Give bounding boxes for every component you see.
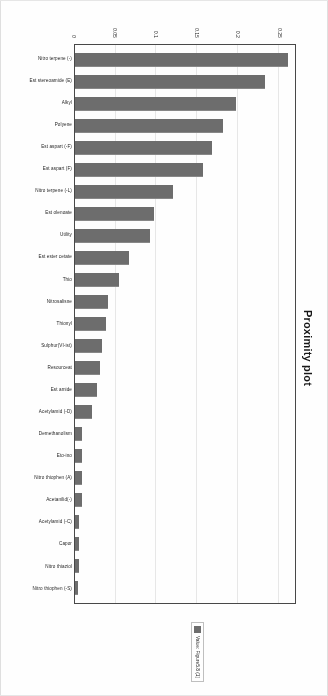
x-axis-tick-label: Thionyl (56, 322, 72, 327)
x-axis-tick-label: Nitrosalisne (47, 300, 72, 305)
x-label-slot: Resourceat (6, 357, 72, 379)
x-axis-tick-label: Nitro terpene (-) (38, 57, 72, 62)
x-label-slot: Est aspart (-F) (6, 136, 72, 158)
legend-swatch-icon (194, 626, 201, 633)
bar-slot (75, 181, 295, 203)
x-axis-tick-label: Demethanolism (39, 432, 72, 437)
bar-slot (75, 137, 295, 159)
x-label-slot: Polyene (6, 114, 72, 136)
bar[interactable] (75, 273, 119, 287)
bar[interactable] (75, 383, 97, 397)
x-label-slot: Est amide (6, 379, 72, 401)
bar[interactable] (75, 559, 79, 573)
x-label-slot: Capor (6, 534, 72, 556)
x-label-slot: Est olenoate (6, 203, 72, 225)
bar[interactable] (75, 581, 78, 595)
x-label-slot: Est ester cetate (6, 247, 72, 269)
bar-slot (75, 489, 295, 511)
x-label-slot: Est stereoamide (E) (6, 70, 72, 92)
bar-series (75, 45, 295, 603)
page-edge-bottom (0, 0, 1, 696)
x-axis-tick-label: Polyene (55, 123, 72, 128)
bar[interactable] (75, 317, 106, 331)
x-label-slot: Nitro terpene (-L) (6, 180, 72, 202)
bar[interactable] (75, 163, 203, 177)
bar-slot (75, 225, 295, 247)
y-axis-tick-label: 0.15 (194, 28, 200, 38)
bar[interactable] (75, 75, 265, 89)
chart-title: Proximity plot (302, 0, 314, 696)
x-axis-tick-label: Sulphur(VI-ist) (41, 344, 72, 349)
x-label-slot: Nitro thiophen (-S) (6, 578, 72, 600)
bar-slot (75, 49, 295, 71)
bar[interactable] (75, 515, 79, 529)
bar[interactable] (75, 449, 82, 463)
x-axis-tick-label: Est aspart (-F) (41, 145, 72, 150)
bar-slot (75, 269, 295, 291)
bar[interactable] (75, 53, 288, 67)
x-label-slot: Acetanilid(-) (6, 490, 72, 512)
x-axis-labels: Nitro terpene (-)Est stereoamide (E)Alky… (6, 44, 72, 604)
bar[interactable] (75, 339, 102, 353)
bar[interactable] (75, 405, 92, 419)
x-axis-tick-label: Utility (60, 233, 72, 238)
x-label-slot: Sulphur(VI-ist) (6, 335, 72, 357)
x-axis-tick-label: Eto-ino (57, 454, 72, 459)
bar[interactable] (75, 295, 108, 309)
y-axis-tick-label: 0.05 (112, 28, 118, 38)
bar-slot (75, 445, 295, 467)
bar-slot (75, 511, 295, 533)
x-axis-tick-label: Nitro terpene (-L) (35, 189, 72, 194)
x-label-slot: Demethanolism (6, 423, 72, 445)
x-axis-tick-label: Resourceat (48, 366, 73, 371)
bar-slot (75, 93, 295, 115)
bar-slot (75, 71, 295, 93)
x-axis-tick-label: Acetylamid (-C) (39, 520, 72, 525)
x-label-slot: Alkyl (6, 92, 72, 114)
bar-slot (75, 401, 295, 423)
bar-slot (75, 247, 295, 269)
bar[interactable] (75, 427, 82, 441)
x-axis-tick-label: Nitro thiaziol (45, 565, 72, 570)
x-axis-tick-label: Nitro thiophen (-S) (33, 587, 72, 592)
x-axis-tick-label: Alkyl (62, 101, 72, 106)
bar-slot (75, 115, 295, 137)
x-axis-tick-label: Acetylamid (-D) (39, 410, 72, 415)
x-label-slot: Utility (6, 225, 72, 247)
bar-slot (75, 291, 295, 313)
y-axis: 00.050.10.150.20.25 (74, 0, 296, 42)
x-label-slot: Acetylamid (-D) (6, 401, 72, 423)
scanned-chart-page: Proximity plot 00.050.10.150.20.25 Nitro… (0, 0, 328, 696)
bar[interactable] (75, 471, 82, 485)
x-axis-tick-label: Thio (63, 278, 72, 283)
y-axis-tick-label: 0.1 (153, 31, 159, 38)
x-axis-tick-label: Nitro thiophen (A) (34, 476, 72, 481)
y-axis-tick-label: 0.2 (235, 31, 241, 38)
bar[interactable] (75, 251, 129, 265)
x-axis-tick-label: Est stereoamide (E) (30, 79, 73, 84)
bar-slot (75, 313, 295, 335)
bar-slot (75, 159, 295, 181)
x-label-slot: Thio (6, 269, 72, 291)
bar[interactable] (75, 229, 150, 243)
x-label-slot: Nitro thiophen (A) (6, 467, 72, 489)
bar-slot (75, 555, 295, 577)
x-axis-tick-label: Est aspart (F) (43, 167, 72, 172)
bar[interactable] (75, 361, 100, 375)
bar[interactable] (75, 141, 212, 155)
y-axis-tick-label: 0.25 (277, 28, 283, 38)
bar-slot (75, 577, 295, 599)
legend: Value: Figure5.8 (1) (191, 622, 204, 682)
bar[interactable] (75, 97, 236, 111)
bar[interactable] (75, 119, 223, 133)
bar[interactable] (75, 493, 82, 507)
x-axis-tick-label: Est ester cetate (38, 255, 72, 260)
x-label-slot: Est aspart (F) (6, 158, 72, 180)
bar[interactable] (75, 185, 173, 199)
x-axis-tick-label: Capor (59, 542, 72, 547)
x-label-slot: Nitro thiaziol (6, 556, 72, 578)
x-axis-tick-label: Est amide (51, 388, 72, 393)
x-label-slot: Thionyl (6, 313, 72, 335)
bar[interactable] (75, 537, 79, 551)
bar[interactable] (75, 207, 154, 221)
